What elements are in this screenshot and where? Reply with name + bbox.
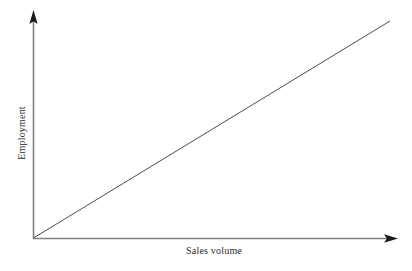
chart-plot-area xyxy=(0,0,412,271)
y-axis-label: Employment xyxy=(16,106,27,160)
data-series-line xyxy=(34,21,391,238)
chart-container: Sales volume Employment xyxy=(0,0,412,271)
x-axis-label: Sales volume xyxy=(186,245,242,256)
